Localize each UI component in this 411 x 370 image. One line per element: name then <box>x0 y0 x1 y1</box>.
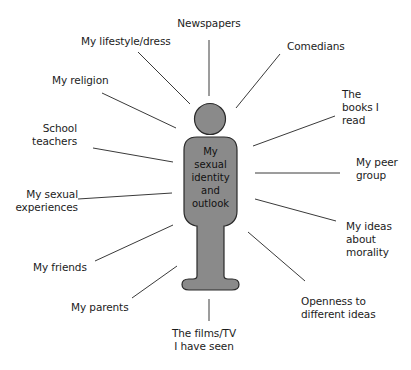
figure-head <box>195 104 226 135</box>
label-openness: Openness to different ideas <box>301 295 376 321</box>
label-line: My friends <box>33 261 87 274</box>
line-lifestyle <box>138 52 190 104</box>
label-line: morality <box>346 246 392 259</box>
line-openness <box>248 232 305 281</box>
label-religion: My religion <box>52 74 109 87</box>
label-line: I have seen <box>160 340 248 353</box>
center-label-line: My <box>184 145 237 158</box>
line-books <box>253 116 335 146</box>
center-label: My sexual identity and outlook <box>184 145 237 210</box>
label-newspapers: Newspapers <box>170 17 248 30</box>
line-friends <box>95 225 173 261</box>
label-peer-group: My peer group <box>356 156 398 182</box>
label-line: Comedians <box>287 40 345 53</box>
label-line: read <box>342 114 379 127</box>
center-label-line: sexual <box>184 158 237 171</box>
label-line: Openness to <box>301 295 376 308</box>
label-lifestyle: My lifestyle/dress <box>81 35 171 48</box>
label-line: experiences <box>4 201 78 214</box>
line-sexual-experiences <box>78 193 172 199</box>
line-morality <box>255 199 336 221</box>
label-morality: My ideas about morality <box>346 220 392 259</box>
label-line: teachers <box>14 135 77 148</box>
label-line: School <box>14 122 77 135</box>
label-line: My lifestyle/dress <box>81 35 171 48</box>
label-line: My religion <box>52 74 109 87</box>
line-comedians <box>236 54 280 108</box>
label-line: about <box>346 233 392 246</box>
label-sexual-experiences: My sexual experiences <box>4 188 78 214</box>
line-parents <box>132 266 177 298</box>
label-line: group <box>356 169 398 182</box>
label-line: books I <box>342 101 379 114</box>
label-comedians: Comedians <box>287 40 345 53</box>
line-teachers <box>93 148 173 162</box>
label-films-tv: The films/TV I have seen <box>160 327 248 353</box>
center-label-line: identity <box>184 171 237 184</box>
label-line: My parents <box>71 301 129 314</box>
label-line: different ideas <box>301 308 376 321</box>
label-line: Newspapers <box>170 17 248 30</box>
label-line: The <box>342 88 379 101</box>
label-friends: My friends <box>33 261 87 274</box>
label-line: My sexual <box>4 188 78 201</box>
center-label-line: and <box>184 184 237 197</box>
label-line: My ideas <box>346 220 392 233</box>
center-label-line: outlook <box>184 197 237 210</box>
label-teachers: School teachers <box>14 122 77 148</box>
label-line: My peer <box>356 156 398 169</box>
line-religion <box>102 93 176 128</box>
label-parents: My parents <box>71 301 129 314</box>
label-line: The films/TV <box>160 327 248 340</box>
label-books: The books I read <box>342 88 379 127</box>
